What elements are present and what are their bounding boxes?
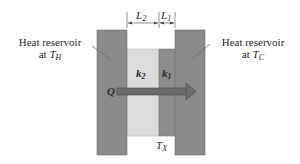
interface-temp-label: TX [156,139,167,155]
L2-label: L2 [136,9,146,25]
diagram-graphics [0,0,300,164]
heat-flow-arrow-shaft [117,88,187,95]
arrowhead-icon [128,22,132,25]
arrowhead-icon [154,22,158,25]
k1-label: k1 [162,67,172,83]
slab-conduction-diagram: Heat reservoir at TH Heat reservoir at T… [0,0,300,164]
k2-label: k2 [136,67,146,83]
left-reservoir-label: Heat reservoir at TH [10,36,90,64]
right-reservoir-label: Heat reservoir at TC [212,36,294,64]
L1-label: L1 [161,9,171,25]
heat-flow-label: Q [107,85,115,97]
